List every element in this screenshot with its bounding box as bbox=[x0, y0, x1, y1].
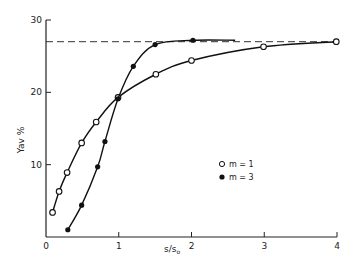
x-tick-label: 0 bbox=[43, 241, 49, 251]
data-point-open bbox=[261, 44, 267, 50]
axes: 01234102030 bbox=[31, 15, 341, 251]
y-tick-label: 30 bbox=[31, 15, 43, 25]
data-point-open bbox=[64, 170, 70, 176]
data-point-filled bbox=[79, 203, 84, 208]
legend-label-m3: m = 3 bbox=[229, 173, 254, 182]
chart: 01234102030 m = 1 m = 3 s/so Yav % bbox=[0, 0, 356, 272]
data-point-open bbox=[93, 119, 99, 125]
data-point-open bbox=[189, 58, 195, 64]
x-tick-label: 4 bbox=[334, 241, 340, 251]
legend-label-m1: m = 1 bbox=[229, 160, 254, 169]
x-tick-label: 1 bbox=[116, 241, 122, 251]
data-point-filled bbox=[153, 42, 158, 47]
x-tick-label: 3 bbox=[261, 241, 267, 251]
series-m3 bbox=[65, 38, 235, 233]
data-point-open bbox=[56, 189, 62, 195]
data-point-open bbox=[50, 210, 56, 216]
data-point-filled bbox=[190, 38, 195, 43]
data-series bbox=[50, 38, 339, 233]
x-axis-title: s/so bbox=[164, 244, 180, 255]
data-point-filled bbox=[115, 96, 120, 101]
y-axis-title: Yav % bbox=[16, 126, 26, 154]
y-tick-label: 20 bbox=[31, 87, 43, 97]
legend-open-circle-icon bbox=[219, 161, 224, 166]
data-point-filled bbox=[102, 139, 107, 144]
x-tick-label: 2 bbox=[189, 241, 195, 251]
series-m1 bbox=[50, 39, 339, 215]
legend: m = 1 m = 3 bbox=[219, 160, 253, 182]
legend-filled-circle-icon bbox=[219, 174, 224, 179]
data-point-filled bbox=[65, 227, 70, 232]
data-point-open bbox=[79, 140, 85, 146]
data-point-filled bbox=[131, 64, 136, 69]
y-tick-label: 10 bbox=[31, 160, 43, 170]
data-point-filled bbox=[95, 164, 100, 169]
data-point-open bbox=[153, 71, 159, 77]
data-point-open bbox=[333, 39, 339, 45]
